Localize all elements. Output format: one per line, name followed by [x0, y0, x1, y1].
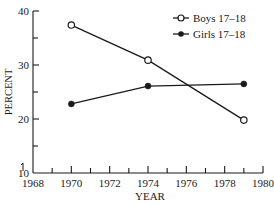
y-tick-label: 20 [18, 113, 30, 125]
open-circle-marker-icon [145, 57, 151, 63]
open-circle-marker-icon [68, 22, 74, 28]
y-tick-label: 30 [18, 59, 30, 71]
legend-item: Boys 17–18 [173, 12, 246, 24]
open-circle-marker-icon [178, 15, 184, 21]
filled-circle-marker-icon [68, 101, 74, 107]
y-tick-label: 40 [18, 5, 30, 17]
x-tick-label: 1974 [137, 177, 160, 189]
filled-circle-marker-icon [178, 31, 184, 37]
line-chart: 102030401968197019721974197619781980 Boy… [0, 0, 274, 205]
y-axis-label: PERCENT [3, 68, 14, 115]
x-tick-label: 1978 [214, 177, 237, 189]
x-tick-label: 1972 [99, 177, 121, 189]
filled-circle-marker-icon [145, 83, 151, 89]
series-line [71, 84, 244, 104]
x-tick-label: 1976 [175, 177, 198, 189]
legend-item: Girls 17–18 [173, 28, 246, 40]
legend-label: Boys 17–18 [193, 12, 246, 24]
x-tick-label: 1980 [252, 177, 274, 189]
x-axis-label: YEAR [135, 190, 166, 202]
x-tick-label: 1970 [60, 177, 83, 189]
legend-label: Girls 17–18 [193, 28, 246, 40]
filled-circle-marker-icon [241, 81, 247, 87]
x-tick-label: 1968 [22, 177, 45, 189]
open-circle-marker-icon [241, 117, 247, 123]
legend: Boys 17–18Girls 17–18 [173, 12, 246, 40]
series-girls [68, 81, 247, 107]
